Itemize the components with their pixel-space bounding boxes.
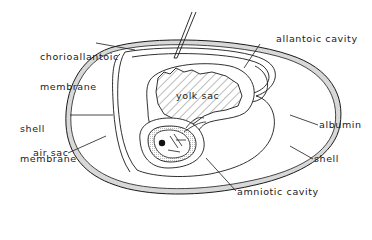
label-air-sac: air sac [33,148,69,158]
label-allantoic-cavity: allantoic cavity [276,34,358,44]
label-albumin: albumin [319,120,362,130]
label-chorioallantoic-line1: chorioallantoic [40,52,119,62]
label-shell-membrane: shell membrane [20,104,77,174]
label-shell-membrane-line1: shell [20,124,77,134]
label-yolk-sac: yolk sac [176,90,219,101]
label-chorioallantoic-line2: membrane [40,82,119,92]
label-chorioallantoic-membrane: chorioallantoic membrane [40,32,119,102]
embryo-eye [159,140,165,146]
label-shell: shell [314,154,339,164]
label-amniotic-cavity: amniotic cavity [237,187,319,197]
